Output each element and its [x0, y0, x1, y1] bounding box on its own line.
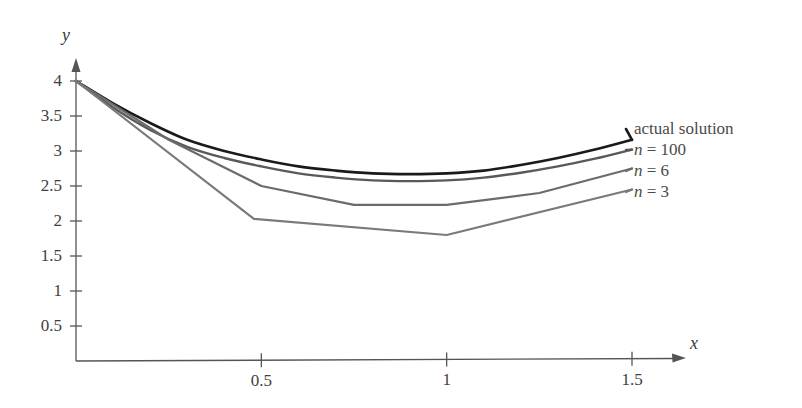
chart-plot-area: [0, 0, 802, 408]
y-tick-label: 2.5: [0, 177, 62, 194]
legend-label-1: actual solution: [634, 120, 734, 137]
data-line-actual-solution: [76, 81, 632, 174]
y-tick-label: 0.5: [0, 317, 62, 334]
x-tick-label: 1.5: [592, 371, 672, 388]
legend-variable-symbol: n: [634, 140, 643, 159]
y-tick-label: 1.5: [0, 247, 62, 264]
legend-label-4: n = 3: [634, 183, 669, 200]
legend-connector-1: [626, 129, 632, 140]
x-tick-label: 1: [407, 371, 487, 388]
x-axis-arrow: [672, 354, 686, 363]
data-line-n-100: [76, 81, 632, 181]
data-series-layer: [76, 81, 632, 235]
chart-figure: y x 0.511.522.533.540.511.5actual soluti…: [0, 0, 802, 408]
legend-variable-symbol: n: [634, 182, 643, 201]
data-line-n-6: [76, 81, 632, 205]
y-tick-label: 2: [0, 212, 62, 229]
y-axis-label: y: [62, 26, 70, 44]
x-axis-line: [76, 359, 676, 362]
y-tick-label: 4: [0, 72, 62, 89]
y-tick-label: 3.5: [0, 107, 62, 124]
legend-value-text: = 3: [643, 182, 670, 201]
x-tick-label: 0.5: [221, 372, 301, 389]
x-axis-label: x: [690, 334, 698, 352]
legend-value-text: = 6: [643, 161, 670, 180]
legend-variable-symbol: n: [634, 161, 643, 180]
y-axis-arrow: [72, 58, 81, 72]
y-tick-label: 1: [0, 282, 62, 299]
legend-label-2: n = 100: [634, 141, 686, 158]
legend-value-text: = 100: [643, 140, 687, 159]
axes-layer: [70, 58, 686, 367]
y-tick-label: 3: [0, 142, 62, 159]
legend-connector-lines: [626, 129, 632, 192]
data-line-n-3: [76, 81, 632, 235]
legend-label-3: n = 6: [634, 162, 669, 179]
